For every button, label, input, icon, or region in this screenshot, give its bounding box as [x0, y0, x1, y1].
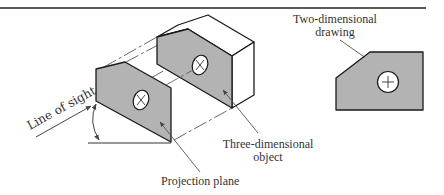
projection-plane-label: Projection plane [161, 175, 239, 188]
projection-plane [96, 62, 171, 142]
diagram-canvas: Line of sight Two-dimensional drawing Th… [0, 0, 444, 195]
projection-plane-leader-icon [160, 122, 200, 172]
angle-arc-icon [93, 104, 99, 140]
drawing-hole-icon [378, 72, 399, 93]
two-dimensional-label: Two-dimensional drawing [285, 13, 385, 39]
two-dimensional-drawing [336, 52, 423, 110]
three-dimensional-label: Three-dimensional object [213, 138, 323, 164]
